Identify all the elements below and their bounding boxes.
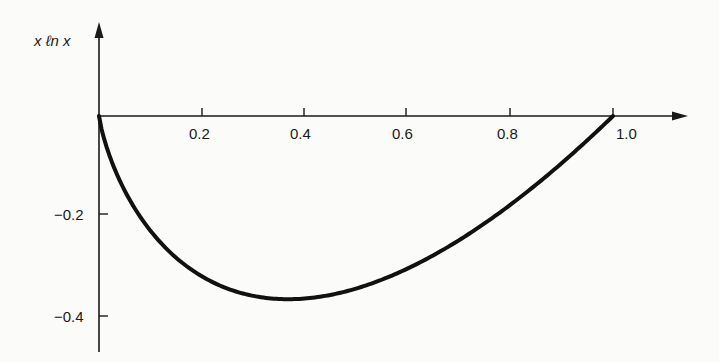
y-axis-label: x ℓn x [33,32,71,49]
y-ticks [99,214,108,316]
x-tick-label: 1.0 [616,125,637,142]
x-tick-label: 0.6 [392,125,413,142]
y-tick-label: −0.4 [54,308,84,325]
chart: 0.2 0.4 0.6 0.8 1.0 −0.2 −0.4 x ℓn x [0,0,719,362]
x-tick-label: 0.4 [290,125,311,142]
y-axis-arrow-icon [95,22,104,38]
x-ln-x-curve [99,116,613,299]
x-ticks [202,108,613,116]
x-tick-label: 0.8 [497,125,518,142]
x-axis-arrow-icon [672,112,688,121]
y-tick-label: −0.2 [54,206,84,223]
x-tick-label: 0.2 [189,125,210,142]
